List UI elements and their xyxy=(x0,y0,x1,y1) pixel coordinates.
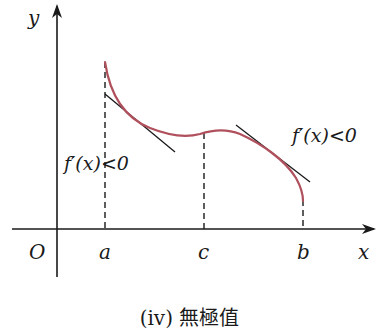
annotation-left-derivative: f′(x)<0 xyxy=(64,152,129,174)
y-axis-label: y xyxy=(28,6,39,30)
annotation-right-derivative: f′(x)<0 xyxy=(292,124,357,146)
point-c-label: c xyxy=(198,240,209,264)
function-curve xyxy=(105,62,303,201)
point-a-label: a xyxy=(99,240,111,264)
x-axis-label: x xyxy=(358,240,369,264)
origin-label: O xyxy=(29,240,45,264)
point-b-label: b xyxy=(297,240,310,264)
figure-caption: (iv) 無極值 xyxy=(0,302,379,331)
